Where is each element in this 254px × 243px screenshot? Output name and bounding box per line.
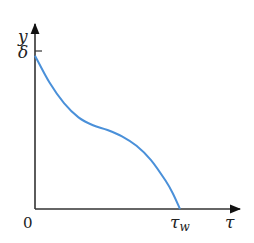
y-tick-label-delta: δ xyxy=(18,42,28,62)
x-axis-label: τ xyxy=(225,212,235,232)
chart: y δ 0 τw τ xyxy=(0,0,254,243)
origin-label: 0 xyxy=(23,214,33,232)
series-line xyxy=(35,56,180,209)
x-tick-label-tau-w: τw xyxy=(170,212,190,234)
